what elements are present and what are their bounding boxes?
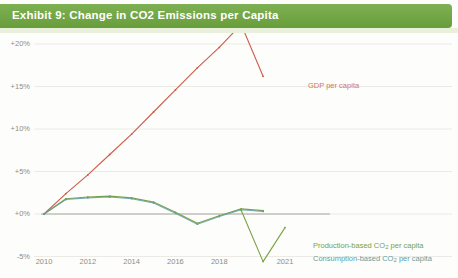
series-marker	[131, 133, 133, 135]
series-marker	[153, 111, 155, 113]
series-marker	[262, 75, 264, 77]
x-axis-tick-label: 2018	[202, 257, 236, 266]
series-marker	[109, 196, 111, 198]
legend-production-text-prefix: Production-based CO	[313, 241, 385, 250]
exhibit-chart-root: Exhibit 9: Change in CO2 Emissions per C…	[0, 0, 458, 278]
y-axis-tick-label: +0%	[0, 209, 30, 218]
series-marker	[262, 211, 264, 213]
x-axis-tick-label: 2014	[115, 257, 149, 266]
y-axis-tick-label: -5%	[0, 252, 30, 261]
legend-item-production: Production-based CO2 per capita	[313, 240, 432, 253]
series-marker	[87, 197, 89, 199]
series-marker	[175, 89, 177, 91]
gdp-series-label: GDP per capita	[308, 81, 359, 90]
series-marker	[196, 67, 198, 69]
legend-consumption-text-prefix: Consumption-based CO	[313, 254, 393, 263]
series-marker	[153, 202, 155, 204]
y-axis-tick-label: +5%	[0, 167, 30, 176]
legend-production-text-suffix: per capita	[388, 241, 423, 250]
data-series-group	[44, 33, 285, 262]
legend-item-consumption: Consumption-based CO2 per capita	[313, 253, 432, 266]
series-line	[241, 210, 285, 261]
series-marker	[196, 223, 198, 225]
chart-legend: Production-based CO2 per capita Consumpt…	[313, 240, 432, 266]
y-axis-tick-label: +20%	[0, 39, 30, 48]
series-marker	[65, 193, 67, 195]
series-line	[44, 196, 263, 223]
y-axis-tick-label: +15%	[0, 82, 30, 91]
series-marker	[43, 213, 45, 215]
series-marker	[240, 209, 242, 211]
series-marker	[218, 47, 220, 49]
series-marker	[109, 154, 111, 156]
chart-plot-area: +20%+15%+10%+5%+0%-5% 201020122014201620…	[0, 33, 458, 278]
x-axis-tick-label: 2010	[27, 257, 61, 266]
data-markers-group	[43, 33, 286, 262]
series-marker	[284, 227, 286, 229]
series-line	[44, 33, 263, 214]
series-marker	[87, 174, 89, 176]
x-axis-tick-label: 2016	[158, 257, 192, 266]
y-axis-tick-label: +10%	[0, 124, 30, 133]
series-line	[44, 197, 263, 224]
legend-consumption-text-suffix: per capita	[397, 254, 432, 263]
x-axis-tick-label: 2021	[268, 257, 302, 266]
series-marker	[131, 198, 133, 200]
series-marker	[262, 261, 264, 263]
series-marker	[175, 212, 177, 214]
x-axis-tick-label: 2012	[71, 257, 105, 266]
series-marker	[218, 216, 220, 218]
page-title: Exhibit 9: Change in CO2 Emissions per C…	[12, 9, 279, 21]
gridlines-group	[34, 44, 452, 257]
series-marker	[65, 199, 67, 201]
